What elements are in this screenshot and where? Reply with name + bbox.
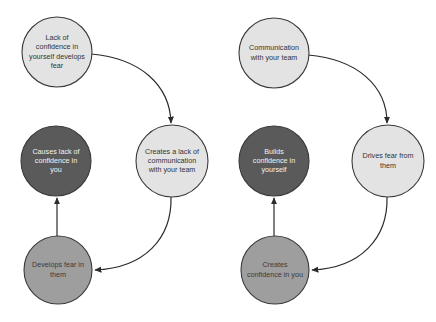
node-communication-with-team[interactable]: Communicationwith your team: [239, 18, 309, 88]
edge-drives-fear-to-creates-confidence: [312, 197, 387, 270]
node-causes-lack-of-confidence[interactable]: Causes lack ofconfidence inyou: [21, 126, 91, 196]
node-creates-confidence-in-you[interactable]: Createsconfidence in you: [241, 236, 309, 304]
edge-communication-to-drives-fear: [308, 55, 387, 123]
node-lack-of-confidence[interactable]: Lack ofconfidence inyourself developsfea…: [22, 17, 92, 87]
node-label-communication-with-team: Communicationwith your team: [249, 43, 299, 61]
edges-layer: [57, 54, 387, 270]
node-drives-fear-from-them[interactable]: Drives fear fromthem: [352, 125, 424, 197]
nodes-layer: Lack ofconfidence inyourself developsfea…: [21, 17, 424, 304]
node-builds-confidence-in-yourself[interactable]: Buildsconfidence inyourself: [239, 126, 309, 196]
edge-confidence-to-communication: [91, 54, 171, 123]
node-creates-lack-of-communication[interactable]: Creates a lack ofcommunicationwith your …: [136, 125, 208, 197]
node-label-creates-lack-of-communication: Creates a lack ofcommunicationwith your …: [145, 147, 199, 174]
node-develops-fear-in-them[interactable]: Develops fear inthem: [24, 236, 92, 304]
diagram-canvas: Lack ofconfidence inyourself developsfea…: [0, 0, 436, 322]
edge-communication-to-fear: [95, 197, 171, 270]
cycle-diagram: Lack ofconfidence inyourself developsfea…: [0, 0, 436, 322]
